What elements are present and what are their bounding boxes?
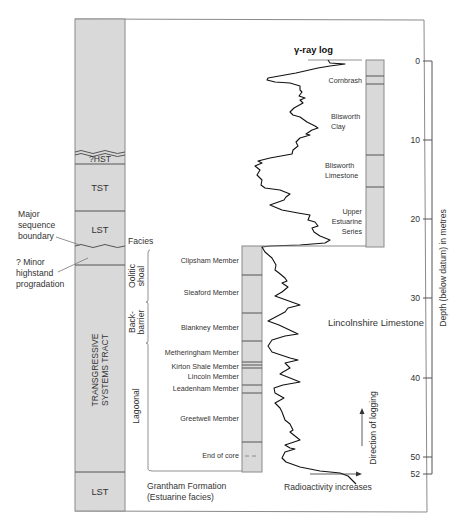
depth-tick-40: 40 bbox=[410, 373, 420, 383]
depth-tick-52: 52 bbox=[410, 469, 420, 479]
depth-tick-20: 20 bbox=[410, 214, 420, 224]
facies-bracket-line bbox=[146, 250, 242, 471]
member-kirton-shale: Kirton Shale Member bbox=[171, 362, 239, 371]
lst-lower-label: LST bbox=[91, 486, 108, 497]
lincolnshire-limestone-label: Lincolnshire Limestone bbox=[328, 317, 424, 328]
depth-tick-30: 30 bbox=[410, 293, 420, 303]
unit-upper-estuarine-3: Series bbox=[342, 227, 363, 236]
radioactivity-label: Radioactivity increases bbox=[284, 482, 372, 492]
major-boundary-line3: boundary bbox=[18, 231, 55, 241]
facies-brackets: Oolitic shoal Back- barrier Lagoonal bbox=[127, 250, 242, 471]
unit-blisworth-clay-1: Blisworth bbox=[331, 112, 360, 121]
end-of-core-label: End of core bbox=[202, 451, 239, 460]
tst-label: TST bbox=[91, 182, 109, 193]
minor-highstand-line1: ? Minor bbox=[16, 257, 45, 267]
upper-unit-column: Cornbrash Blisworth Clay Blisworth Limes… bbox=[325, 60, 384, 247]
hst-label: ?HST bbox=[89, 154, 112, 164]
gamma-ray-log-title: γ-ray log bbox=[294, 44, 333, 55]
grantham-formation-label: Grantham Formation bbox=[147, 481, 227, 491]
systems-tract-column: ?HST TST LST TRANSGRESSIVE SYSTEMS TRACT… bbox=[75, 19, 125, 511]
major-boundary-line2: sequence bbox=[18, 220, 55, 230]
facies-backbarrier-2: barrier bbox=[136, 309, 146, 334]
unit-cornbrash: Cornbrash bbox=[328, 76, 362, 85]
systems-tract-label: SYSTEMS TRACT bbox=[100, 333, 110, 406]
direction-arrow-head bbox=[360, 408, 365, 414]
depth-axis: 0 10 20 30 40 50 52 Depth (below datum) … bbox=[410, 56, 448, 479]
unit-blisworth-clay-2: Clay bbox=[331, 122, 346, 131]
transgressive-label: TRANSGRESSIVE bbox=[90, 333, 100, 406]
radioactivity-arrow-head bbox=[356, 472, 362, 477]
unit-blisworth-limestone-2: Limestone bbox=[325, 171, 358, 180]
stratigraphic-log-diagram: ?HST TST LST TRANSGRESSIVE SYSTEMS TRACT… bbox=[0, 0, 462, 524]
member-leadenham: Leadenham Member bbox=[173, 384, 240, 393]
depth-tick-50: 50 bbox=[410, 452, 420, 462]
lower-column-fill bbox=[242, 246, 262, 472]
member-metheringham: Metheringham Member bbox=[165, 348, 240, 357]
member-greetwell: Greetwell Member bbox=[180, 414, 239, 423]
unit-blisworth-limestone-1: Blisworth bbox=[325, 161, 354, 170]
upper-column-fill bbox=[366, 60, 384, 247]
direction-of-logging-label: Direction of logging bbox=[368, 391, 378, 465]
depth-tick-0: 0 bbox=[415, 56, 420, 66]
member-lincoln: Lincoln Member bbox=[188, 372, 240, 381]
depth-axis-label: Depth (below datum) in metres bbox=[438, 209, 448, 327]
facies-header: Facies bbox=[128, 236, 153, 246]
unit-upper-estuarine-2: Estuarine bbox=[332, 217, 362, 226]
facies-oolitic-2: shoal bbox=[136, 266, 146, 287]
minor-highstand-line2: highstand bbox=[16, 268, 53, 278]
depth-tick-10: 10 bbox=[410, 135, 420, 145]
lst-upper-label: LST bbox=[91, 224, 108, 235]
grantham-facies-label: (Estuarine facies) bbox=[147, 492, 214, 502]
unit-upper-estuarine-1: Upper bbox=[342, 207, 362, 216]
facies-lagoonal: Lagoonal bbox=[131, 388, 141, 423]
member-clipsham: Clipsham Member bbox=[181, 256, 240, 265]
member-sleaford: Sleaford Member bbox=[184, 288, 240, 297]
major-boundary-line1: Major bbox=[18, 209, 40, 219]
member-blankney: Blankney Member bbox=[181, 323, 240, 332]
minor-highstand-line3: progradation bbox=[16, 279, 64, 289]
lower-member-column: Clipsham Member Sleaford Member Blankney… bbox=[165, 246, 262, 472]
